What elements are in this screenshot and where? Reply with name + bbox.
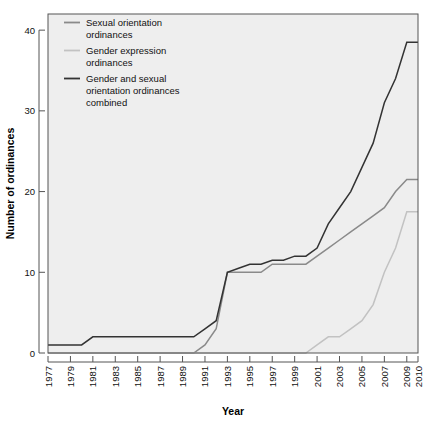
x-tick-label: 1983 bbox=[110, 366, 121, 387]
legend-label-0: Sexual orientation bbox=[86, 17, 162, 28]
legend-label-1: Gender expression bbox=[86, 45, 166, 56]
x-tick-label: 1987 bbox=[155, 366, 166, 387]
x-tick-label: 1993 bbox=[222, 366, 233, 387]
x-tick-label: 1979 bbox=[65, 366, 76, 387]
x-tick-label: 1989 bbox=[177, 366, 188, 387]
x-tick-label: 1991 bbox=[199, 366, 210, 387]
x-tick-label: 1997 bbox=[267, 366, 278, 387]
x-axis: 1977197919811983198519871989199119931995… bbox=[43, 356, 424, 387]
x-tick-label: 1995 bbox=[244, 366, 255, 387]
x-tick-label: 2009 bbox=[401, 366, 412, 387]
y-tick-label: 30 bbox=[24, 105, 35, 116]
y-tick-label: 20 bbox=[24, 186, 35, 197]
y-tick-label: 10 bbox=[24, 267, 35, 278]
y-tick-label: 40 bbox=[24, 25, 35, 36]
y-tick-label: 0 bbox=[30, 348, 35, 359]
x-axis-title: Year bbox=[222, 405, 244, 417]
x-tick-label: 1977 bbox=[43, 366, 54, 387]
line-chart: 010203040 197719791981198319851987198919… bbox=[0, 0, 436, 423]
legend-label-2: orientation ordinances bbox=[86, 85, 180, 96]
x-tick-label: 2010 bbox=[413, 366, 424, 387]
legend-label-1: ordinances bbox=[86, 57, 133, 68]
legend-label-0: ordinances bbox=[86, 29, 133, 40]
x-tick-label: 2005 bbox=[356, 366, 367, 387]
x-tick-label: 1999 bbox=[289, 366, 300, 387]
legend-label-2: Gender and sexual bbox=[86, 73, 166, 84]
x-tick-label: 2001 bbox=[312, 366, 323, 387]
x-tick-label: 1985 bbox=[132, 366, 143, 387]
x-tick-label: 2007 bbox=[379, 366, 390, 387]
x-tick-label: 1981 bbox=[87, 366, 98, 387]
y-axis-title: Number of ordinances bbox=[4, 128, 16, 240]
y-axis: 010203040 bbox=[24, 25, 45, 359]
x-tick-label: 2003 bbox=[334, 366, 345, 387]
legend-label-2: combined bbox=[86, 97, 127, 108]
chart-container: 010203040 197719791981198319851987198919… bbox=[0, 0, 436, 423]
